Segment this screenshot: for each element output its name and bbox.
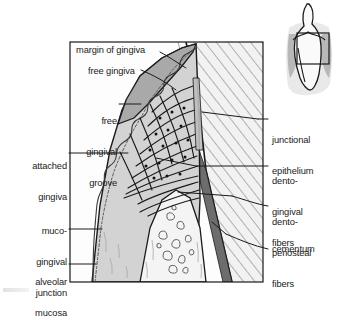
label-free-gingival-groove-line1: free xyxy=(62,116,117,126)
label-attached-gingiva-line1: attached xyxy=(3,161,67,171)
label-free-gingival-groove-line2: gingival xyxy=(62,147,117,157)
label-attached-gingiva-line2: gingiva xyxy=(3,192,67,202)
label-margin-of-gingiva: margin of gingiva xyxy=(76,45,145,55)
orientation-inset xyxy=(286,4,332,95)
label-alveolar-mucosa-line1: alveolar xyxy=(3,277,67,287)
label-cementum: cementum xyxy=(272,244,315,254)
label-dento-periosteal-fibers-line1: dento- xyxy=(272,217,311,227)
label-junctional-epithelium-line1: junctional xyxy=(272,135,313,145)
label-dento-gingival-fibers-line1: dento- xyxy=(272,176,303,186)
label-free-gingival-groove: free gingival groove xyxy=(62,95,117,209)
label-alveolar-mucosa-line2: mucosa xyxy=(3,308,67,318)
label-mucogingival-junction-line1: muco- xyxy=(3,226,67,236)
cropped-caption-mark xyxy=(3,288,29,292)
label-dento-periosteal-fibers-line3: fibers xyxy=(272,279,311,289)
label-free-gingival-groove-line3: groove xyxy=(62,178,117,188)
label-free-gingiva: free gingiva xyxy=(88,66,135,76)
